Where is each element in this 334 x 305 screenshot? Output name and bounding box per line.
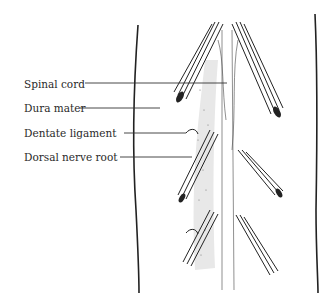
label-dura-mater: Dura mater [24,102,85,114]
label-dorsal-nerve-root: Dorsal nerve root [24,151,117,163]
label-dentate-ligament: Dentate ligament [24,127,117,139]
label-spinal-cord: Spinal cord [24,78,85,90]
